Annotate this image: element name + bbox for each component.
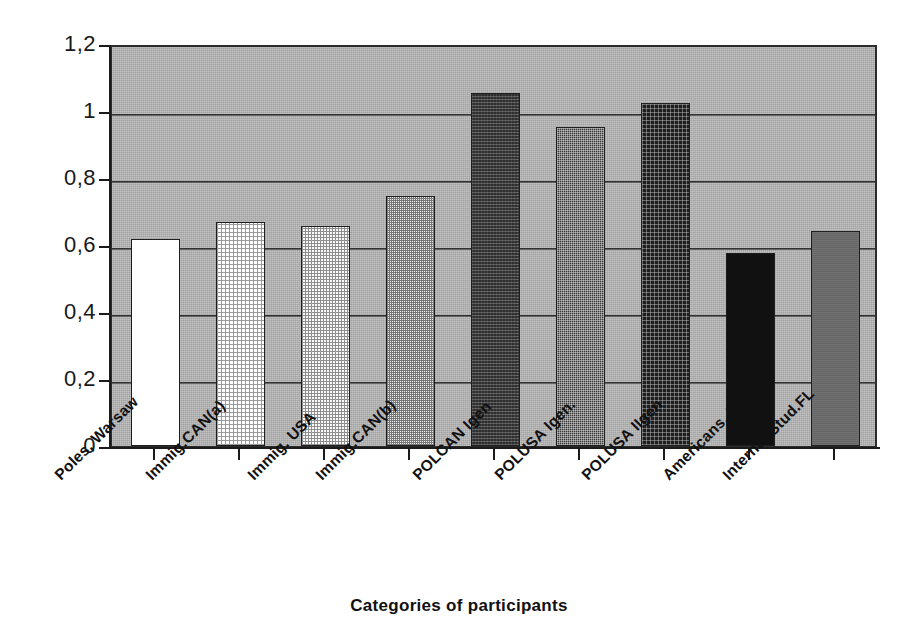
y-tick-mark-0_2 (99, 380, 110, 382)
x-tick-mark-7 (663, 449, 665, 460)
y-tick-mark-1_2 (99, 45, 110, 47)
bar-internat-stud-fl (811, 231, 860, 446)
x-tick-mark-9 (833, 449, 835, 460)
x-tick-mark-6 (578, 449, 580, 460)
bar-chart-figure: 1,2 1 0,8 0,6 0,4 0,2 0 Poles, Warsaw Im… (0, 0, 918, 633)
y-tick-mark-0 (99, 447, 110, 449)
x-tick-mark-2 (238, 449, 240, 460)
y-tick-label-1_2: 1,2 (64, 31, 96, 57)
y-tick-label-0_2: 0,2 (64, 366, 96, 392)
bar-polusa-iigen (641, 103, 690, 446)
x-axis-title: Categories of participants (0, 596, 918, 616)
y-tick-label-0_4: 0,4 (64, 299, 96, 325)
x-tick-mark-5 (493, 449, 495, 460)
bar-polcan-igen (471, 93, 520, 446)
x-tick-mark-4 (408, 449, 410, 460)
y-tick-mark-0_6 (99, 246, 110, 248)
y-tick-label-0_8: 0,8 (64, 165, 96, 191)
y-tick-label-0_6: 0,6 (64, 232, 96, 258)
y-tick-mark-0_8 (99, 179, 110, 181)
bar-poles-warsaw (131, 239, 180, 446)
y-tick-mark-0_4 (99, 313, 110, 315)
y-tick-mark-1 (99, 112, 110, 114)
y-tick-label-1: 1 (83, 98, 96, 124)
plot-area (110, 45, 877, 448)
